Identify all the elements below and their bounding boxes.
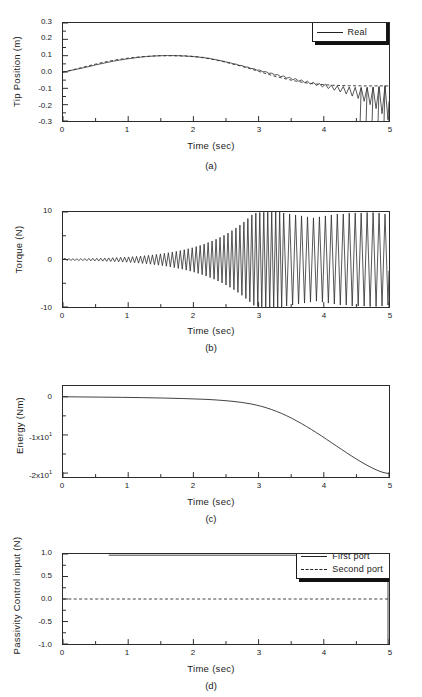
panel-d-ytick-4: -1.0: [22, 641, 52, 649]
panel-d-xlabel: Time (sec): [0, 663, 422, 674]
panel-c-curves: [63, 386, 389, 477]
panel-a-xtick-4: 4: [315, 126, 333, 134]
panel-a-ytick-6: -0.3: [22, 118, 52, 126]
panel-b-ytick-2: -10: [22, 304, 52, 312]
panel-a-xtick-5: 5: [381, 126, 399, 134]
panel-b-ytick-0: 10: [22, 207, 52, 215]
panel-b-xtick-4: 4: [315, 312, 333, 320]
panel-c: Energy (Nm) 0 -1x101 -2x101 0 1 2 3 4 5 …: [0, 358, 422, 530]
panel-b: Torque (N) 10 0 -10 0 1 2 3 4 5 Ti: [0, 180, 422, 358]
panel-d-xtick-marks: [63, 639, 389, 644]
panel-a-ytick-2: 0.1: [22, 51, 52, 59]
panel-d-xtick-2: 2: [184, 649, 202, 657]
panel-b-xlabel: Time (sec): [0, 325, 422, 336]
panel-c-xtick-3: 3: [250, 482, 268, 490]
panel-b-tag: (b): [0, 342, 422, 353]
panel-d-ytick-1: 0.5: [22, 572, 52, 580]
panel-a-ylabel: Tip Position (m): [11, 17, 22, 127]
legend-label-real: Real: [348, 27, 367, 37]
panel-b-ytick-marks: [63, 212, 68, 307]
panel-d-plot-area: First port Second port: [62, 553, 390, 645]
panel-d-xtick-3: 3: [250, 649, 268, 657]
panel-c-ytick-marks: [63, 397, 68, 473]
legend-row-first-port: First port: [301, 553, 383, 562]
legend-row-real: Real: [317, 25, 380, 38]
panel-b-torque-curve: [63, 212, 282, 307]
panel-d-ytick-2: 0.0: [22, 595, 52, 603]
panel-a-desired-curve: [63, 56, 389, 86]
legend-row-second-port: Second port: [301, 562, 383, 575]
panel-a-xtick-0: 0: [53, 126, 71, 134]
legend-label-first-port: First port: [332, 553, 370, 561]
panel-d: Passivity Control input (N) 1.0 0.5 0.0 …: [0, 530, 422, 697]
panel-b-xtick-3: 3: [250, 312, 268, 320]
panel-d-legend: First port Second port: [296, 553, 390, 579]
panel-c-ylabel: Energy (Nm): [14, 376, 25, 476]
panel-d-xtick-0: 0: [53, 649, 71, 657]
panel-c-energy-curve: [63, 397, 389, 474]
legend-label-desired: Desired: [348, 22, 380, 24]
panel-c-xtick-marks: [63, 472, 389, 477]
panel-b-ylabel: Torque (N): [13, 205, 24, 295]
panel-b-curves: [63, 212, 389, 307]
panel-a-xtick-1: 1: [118, 126, 136, 134]
panel-a-xlabel: Time (sec): [0, 140, 422, 151]
panel-a-ytick-5: -0.2: [22, 102, 52, 110]
legend-swatch-second-port: [301, 565, 327, 573]
panel-b-xtick-2: 2: [184, 312, 202, 320]
panel-b-torque-curve-tail: [282, 212, 389, 307]
panel-c-tag: (c): [0, 513, 422, 524]
panel-a-xtick-3: 3: [250, 126, 268, 134]
panel-d-xtick-5: 5: [381, 649, 399, 657]
panel-b-ytick-1: 0: [22, 256, 52, 264]
legend-swatch-first-port: [301, 553, 327, 560]
figure-container: Tip Position (m) 0.3 0.2 0.1 0.0 -0.1 -0…: [0, 0, 422, 697]
panel-c-ytick-2: -2x101: [18, 470, 52, 480]
panel-c-xtick-0: 0: [53, 482, 71, 490]
panel-a-legend: Desired Real: [312, 22, 387, 42]
panel-a-ytick-0: 0.3: [22, 18, 52, 26]
panel-d-tag: (d): [0, 680, 422, 691]
panel-b-xtick-1: 1: [118, 312, 136, 320]
panel-c-xtick-5: 5: [381, 482, 399, 490]
panel-a-real-curve: [63, 56, 389, 120]
panel-d-ylabel: Passivity Control input (N): [11, 526, 22, 666]
panel-d-ytick-3: -0.5: [22, 618, 52, 626]
panel-b-plot-area: [62, 211, 390, 308]
panel-c-xlabel: Time (sec): [0, 496, 422, 507]
panel-a-plot-area: Desired Real: [62, 22, 390, 122]
panel-a-tag: (a): [0, 160, 422, 171]
panel-a-xtick-marks: [63, 116, 389, 121]
panel-a-xtick-2: 2: [184, 126, 202, 134]
panel-c-ytick-1: -1x101: [18, 432, 52, 442]
panel-a: Tip Position (m) 0.3 0.2 0.1 0.0 -0.1 -0…: [0, 0, 422, 180]
panel-a-ytick-3: 0.0: [22, 68, 52, 76]
panel-b-xtick-5: 5: [381, 312, 399, 320]
legend-label-second-port: Second port: [332, 564, 383, 574]
panel-c-plot-area: [62, 385, 390, 478]
panel-a-ytick-4: -0.1: [22, 85, 52, 93]
panel-c-xtick-4: 4: [315, 482, 333, 490]
panel-c-xtick-1: 1: [118, 482, 136, 490]
panel-d-xtick-4: 4: [315, 649, 333, 657]
panel-d-xtick-1: 1: [118, 649, 136, 657]
panel-c-xtick-2: 2: [184, 482, 202, 490]
panel-b-xtick-0: 0: [53, 312, 71, 320]
panel-a-ytick-1: 0.2: [22, 34, 52, 42]
panel-d-ytick-0: 1.0: [22, 549, 52, 557]
panel-c-ytick-0: 0: [18, 393, 52, 401]
legend-swatch-desired: [317, 22, 343, 23]
legend-swatch-real: [317, 28, 343, 36]
